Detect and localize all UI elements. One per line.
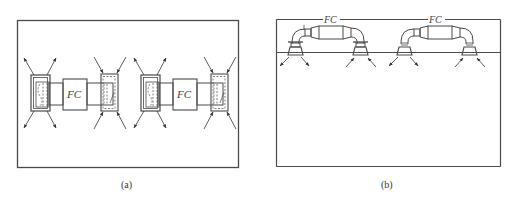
fc-label-b2: FC	[428, 14, 442, 25]
panel-a	[18, 21, 239, 168]
fan-coil-body	[319, 26, 343, 39]
caption-a: (a)	[121, 179, 132, 190]
return-grille	[353, 47, 368, 55]
fan-coil-unit-b2	[389, 26, 485, 67]
fan-coil-unit-b1	[280, 25, 376, 67]
supply-diffuser	[397, 47, 412, 55]
figure-canvas: FC FC FC FC	[0, 0, 513, 201]
caption-b: (b)	[381, 179, 393, 190]
fc-label-a2: FC	[176, 88, 192, 100]
return-grille	[462, 47, 477, 55]
fc-label-a1: FC	[66, 88, 82, 100]
room-outline-a	[18, 21, 239, 168]
fc-label-b1: FC	[323, 14, 337, 25]
supply-diffuser	[288, 47, 303, 55]
panel-b	[277, 20, 501, 167]
fan-coil-body	[428, 26, 452, 39]
